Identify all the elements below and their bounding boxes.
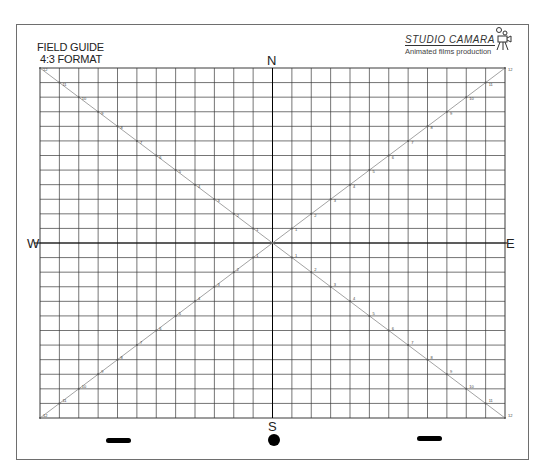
field-marker	[117, 125, 119, 127]
field-marker	[504, 417, 506, 419]
field-guide-grid: 1211109876543211211109876543211211109876…	[0, 0, 543, 472]
field-marker	[97, 111, 99, 113]
field-marker	[39, 417, 41, 419]
registration-dot	[268, 434, 280, 446]
field-marker	[175, 315, 177, 317]
field-marker	[291, 227, 293, 229]
peg-bar-left	[106, 438, 131, 443]
field-marker-label: 12	[508, 413, 513, 418]
field-marker	[388, 330, 390, 332]
field-marker-label: 7	[411, 340, 414, 345]
field-marker	[175, 169, 177, 171]
field-marker	[330, 198, 332, 200]
field-marker	[407, 344, 409, 346]
field-marker-label: 9	[450, 369, 453, 374]
field-marker	[310, 213, 312, 215]
field-marker	[368, 315, 370, 317]
field-marker-label: 10	[469, 384, 474, 389]
field-marker	[427, 125, 429, 127]
field-marker	[136, 344, 138, 346]
field-marker	[252, 227, 254, 229]
field-marker	[194, 184, 196, 186]
field-marker	[465, 96, 467, 98]
field-marker	[194, 300, 196, 302]
field-marker	[407, 140, 409, 142]
field-marker-label: 11	[489, 398, 494, 403]
field-marker-label: 3	[334, 282, 337, 287]
field-marker	[291, 257, 293, 259]
compass-south: S	[268, 420, 277, 433]
field-marker-label: 4	[353, 296, 356, 301]
field-marker	[39, 67, 41, 69]
field-marker	[330, 286, 332, 288]
field-marker	[58, 82, 60, 84]
field-marker	[446, 373, 448, 375]
field-marker	[485, 402, 487, 404]
field-marker	[465, 388, 467, 390]
field-marker-label: 2	[314, 267, 317, 272]
field-marker-label: 5	[372, 311, 375, 316]
field-marker	[136, 140, 138, 142]
field-marker	[252, 257, 254, 259]
field-marker	[78, 96, 80, 98]
field-marker	[233, 271, 235, 273]
compass-north: N	[267, 54, 276, 67]
field-marker	[349, 300, 351, 302]
field-marker-label: 12	[508, 67, 513, 72]
field-marker-label: 10	[82, 384, 87, 389]
field-marker	[485, 82, 487, 84]
field-marker-label: 8	[431, 355, 434, 360]
field-marker-label: 1	[295, 253, 298, 258]
field-marker-label: 12	[43, 413, 48, 418]
peg-bar-right	[417, 436, 442, 441]
field-marker-label: 6	[392, 326, 395, 331]
field-marker-label: 10	[469, 96, 474, 101]
field-marker	[446, 111, 448, 113]
field-marker	[58, 402, 60, 404]
field-marker	[504, 67, 506, 69]
field-marker-label: 11	[62, 398, 67, 403]
field-marker	[368, 169, 370, 171]
field-marker	[78, 388, 80, 390]
field-marker	[117, 359, 119, 361]
compass-west: W	[27, 237, 39, 250]
field-marker	[388, 155, 390, 157]
field-marker	[97, 373, 99, 375]
field-marker	[155, 155, 157, 157]
field-marker	[155, 330, 157, 332]
field-marker-label: 12	[43, 67, 48, 72]
field-marker	[213, 286, 215, 288]
field-marker	[233, 213, 235, 215]
field-marker	[310, 271, 312, 273]
field-marker-label: 10	[82, 96, 87, 101]
field-marker	[349, 184, 351, 186]
compass-east: E	[506, 237, 515, 250]
field-marker	[213, 198, 215, 200]
field-marker	[427, 359, 429, 361]
